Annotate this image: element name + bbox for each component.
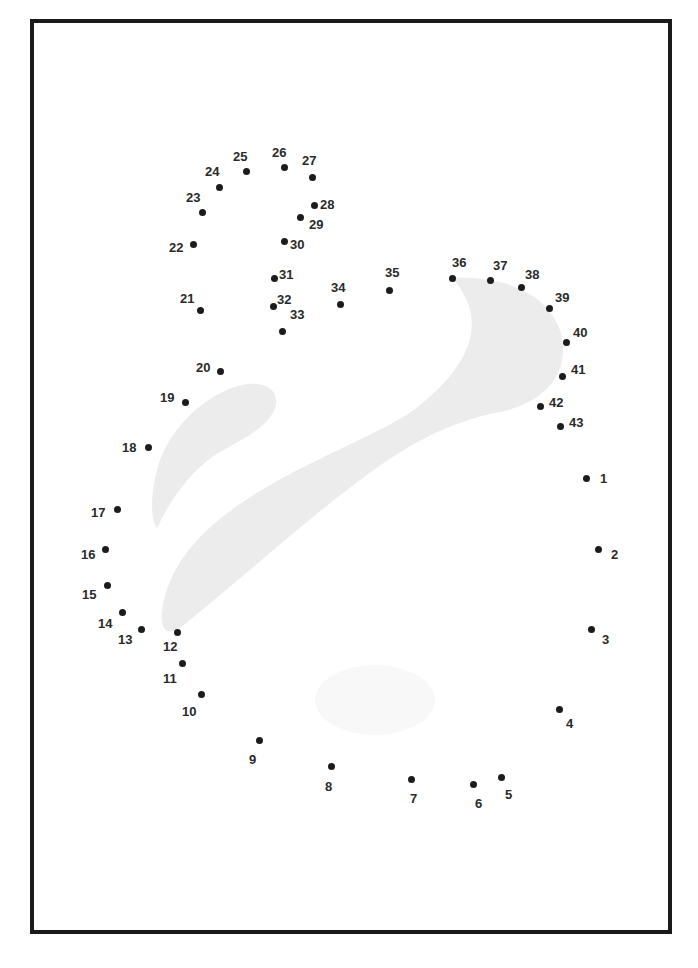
dot-43 (557, 423, 564, 430)
dot-7 (408, 776, 415, 783)
dot-label: 20 (196, 361, 210, 374)
dot-label: 42 (549, 396, 563, 409)
dot-label: 19 (160, 391, 174, 404)
dot-label: 24 (205, 165, 219, 178)
dot-label: 31 (279, 268, 293, 281)
dot-6 (470, 781, 477, 788)
dot-label: 23 (186, 191, 200, 204)
dot-34 (337, 301, 344, 308)
dot-label: 25 (233, 150, 247, 163)
dot-label: 28 (320, 198, 334, 211)
dot-17 (114, 506, 121, 513)
dot-label: 2 (611, 548, 618, 561)
dot-26 (281, 164, 288, 171)
dot-label: 1 (600, 472, 607, 485)
dot-14 (119, 609, 126, 616)
dot-label: 9 (249, 753, 256, 766)
dot-16 (102, 546, 109, 553)
dot-13 (138, 626, 145, 633)
dot-5 (498, 774, 505, 781)
dot-36 (449, 275, 456, 282)
dot-label: 17 (91, 506, 105, 519)
dot-30 (281, 238, 288, 245)
dot-29 (297, 214, 304, 221)
dot-12 (174, 629, 181, 636)
dot-label: 33 (290, 308, 304, 321)
dot-label: 29 (309, 218, 323, 231)
dot-label: 6 (475, 797, 482, 810)
dot-label: 38 (525, 268, 539, 281)
dot-11 (179, 660, 186, 667)
dot-41 (559, 373, 566, 380)
dot-21 (197, 307, 204, 314)
dot-39 (546, 305, 553, 312)
dot-1 (583, 475, 590, 482)
dot-label: 40 (573, 326, 587, 339)
dot-label: 5 (505, 788, 512, 801)
dot-label: 34 (331, 281, 345, 294)
dot-label: 27 (302, 154, 316, 167)
dot-label: 16 (81, 548, 95, 561)
dot-label: 30 (290, 238, 304, 251)
dot-label: 39 (555, 291, 569, 304)
dot-label: 10 (182, 705, 196, 718)
dot-28 (311, 202, 318, 209)
dot-37 (487, 277, 494, 284)
dot-label: 14 (98, 617, 112, 630)
dot-label: 3 (602, 633, 609, 646)
dot-label: 22 (169, 241, 183, 254)
neck-shape (162, 278, 563, 632)
dot-20 (217, 368, 224, 375)
dot-24 (216, 184, 223, 191)
dot-3 (588, 626, 595, 633)
dot-label: 4 (566, 717, 573, 730)
dot-2 (595, 546, 602, 553)
dot-label: 13 (118, 633, 132, 646)
dot-33 (279, 328, 286, 335)
dot-10 (198, 691, 205, 698)
dot-19 (182, 399, 189, 406)
dot-9 (256, 737, 263, 744)
dot-label: 18 (122, 441, 136, 454)
dot-25 (243, 168, 250, 175)
dot-40 (563, 339, 570, 346)
dot-label: 21 (180, 292, 194, 305)
dot-38 (518, 284, 525, 291)
dot-4 (556, 706, 563, 713)
faint-reflection (315, 665, 435, 735)
dot-label: 41 (571, 363, 585, 376)
dot-label: 8 (325, 780, 332, 793)
dot-label: 7 (410, 792, 417, 805)
dot-label: 26 (272, 146, 286, 159)
dot-32 (270, 303, 277, 310)
dot-label: 35 (385, 266, 399, 279)
dot-label: 11 (163, 672, 177, 685)
swan-hint-shapes (0, 0, 698, 968)
dot-18 (145, 444, 152, 451)
dot-label: 36 (452, 256, 466, 269)
dot-label: 32 (277, 293, 291, 306)
dot-label: 37 (493, 259, 507, 272)
dot-27 (309, 174, 316, 181)
dot-35 (386, 287, 393, 294)
dot-8 (328, 763, 335, 770)
dot-label: 15 (82, 588, 96, 601)
dot-22 (190, 241, 197, 248)
dot-31 (271, 275, 278, 282)
dot-23 (199, 209, 206, 216)
dot-label: 43 (569, 416, 583, 429)
dot-label: 12 (163, 640, 177, 653)
dot-15 (104, 582, 111, 589)
dot-42 (537, 403, 544, 410)
